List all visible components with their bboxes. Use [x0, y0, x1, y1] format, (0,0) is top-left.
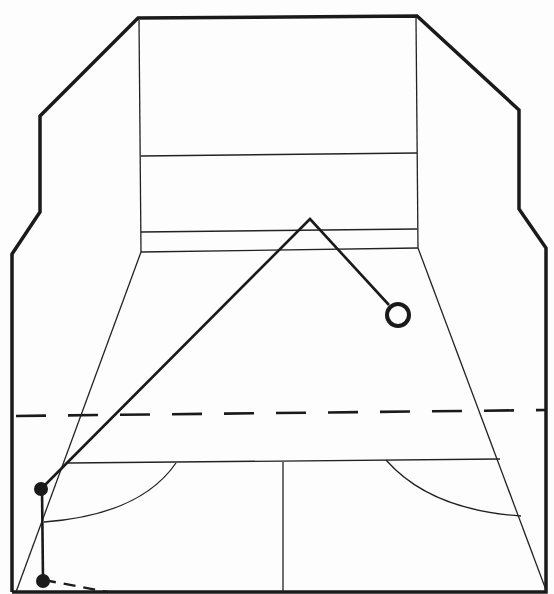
- dashed-reference-line: [16, 410, 546, 416]
- front-wall-tin-line: [141, 229, 417, 232]
- player-exit-line: [44, 580, 108, 592]
- court-outline: [12, 16, 546, 592]
- floor-right-edge: [418, 248, 546, 590]
- front-wall-right-edge: [416, 18, 418, 248]
- floor-left-edge: [16, 252, 141, 592]
- squash-court-diagram: [0, 0, 554, 594]
- front-wall-left-edge: [139, 20, 141, 252]
- player-position-end: [36, 574, 50, 588]
- ball-trajectory: [42, 219, 389, 488]
- left-service-box-arc: [44, 463, 176, 522]
- front-wall-service-line: [141, 153, 417, 156]
- player-movement-line: [42, 488, 43, 580]
- short-line: [68, 459, 500, 463]
- ball-landing-marker: [387, 304, 409, 326]
- player-position-start: [34, 482, 48, 496]
